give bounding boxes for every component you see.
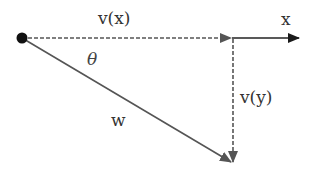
vx-label: v(x) bbox=[97, 8, 130, 28]
w-vector-arrow bbox=[22, 38, 231, 162]
theta-label: θ bbox=[87, 49, 97, 69]
x-axis-label: x bbox=[281, 9, 291, 29]
vector-diagram: v(x) x θ w v(y) bbox=[0, 0, 316, 178]
w-label: w bbox=[111, 110, 126, 130]
vy-label: v(y) bbox=[239, 87, 272, 107]
origin-point bbox=[17, 33, 28, 44]
